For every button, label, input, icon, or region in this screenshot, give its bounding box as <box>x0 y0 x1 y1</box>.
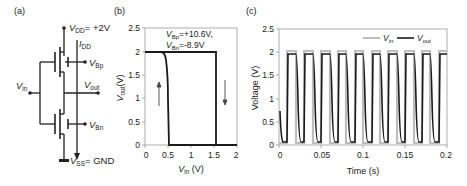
vin-label: Vin <box>16 80 28 92</box>
panel-c-label: (c) <box>246 6 257 16</box>
panel-b-ytick-labels: 2.5 2 1.5 1 0.5 0 <box>128 23 140 150</box>
panel-c-ylabel: Voltage (V) <box>250 66 260 111</box>
vout-label: Vout <box>84 79 100 91</box>
svg-text:2.5: 2.5 <box>128 23 140 33</box>
vdd-node <box>62 26 66 30</box>
svg-text:1.5: 1.5 <box>262 70 274 80</box>
panel-b-xtick-labels: 0 0.5 1 1.5 2 <box>144 150 239 160</box>
down-arrow-icon <box>223 100 227 105</box>
vbn-label: VBn <box>89 119 104 131</box>
svg-text:1.5: 1.5 <box>208 150 220 160</box>
panel-b-xlabel: Vin (V) <box>178 164 204 175</box>
svg-text:0.5: 0.5 <box>162 150 174 160</box>
svg-text:0.5: 0.5 <box>128 117 140 127</box>
panel-b-label: (b) <box>114 6 125 16</box>
vout-node <box>96 91 100 95</box>
figure: (a) VDD= +2V IDD VBp Vin Vout VBn VSS= G… <box>0 0 467 186</box>
idd-label: IDD <box>79 39 91 50</box>
svg-text:1: 1 <box>189 150 194 160</box>
up-arrow-icon <box>157 82 161 87</box>
svg-text:0.2: 0.2 <box>440 150 452 160</box>
panel-c-xtick-labels: 0 0.05 0.1 0.15 0.2 <box>278 150 453 160</box>
panel-b-annotation-vbp: VBp=+10.6V, <box>166 29 213 40</box>
panel-c-legend: Vin Vout <box>360 31 446 44</box>
vbp-label: VBp <box>89 57 104 70</box>
svg-text:0: 0 <box>144 150 149 160</box>
svg-text:2.5: 2.5 <box>262 24 274 34</box>
svg-text:2: 2 <box>269 47 274 57</box>
svg-text:1: 1 <box>135 93 140 103</box>
svg-text:0: 0 <box>135 140 140 150</box>
svg-text:0.5: 0.5 <box>262 117 274 127</box>
svg-text:0.15: 0.15 <box>397 150 414 160</box>
vbp-node <box>83 60 87 64</box>
svg-text:0: 0 <box>269 140 274 150</box>
panel-a-label: (a) <box>14 6 25 16</box>
vbn-node <box>83 122 87 126</box>
ground-bar <box>59 159 69 162</box>
svg-text:0: 0 <box>278 150 283 160</box>
svg-text:2: 2 <box>234 150 239 160</box>
svg-text:2: 2 <box>135 47 140 57</box>
panel-b-annotation-vbn: VBn=-8.9V <box>166 40 205 51</box>
svg-text:1.5: 1.5 <box>128 70 140 80</box>
panel-c-ytick-labels: 2.5 2 1.5 1 0.5 0 <box>262 24 274 150</box>
svg-text:0.05: 0.05 <box>314 150 331 160</box>
svg-text:0.1: 0.1 <box>357 150 369 160</box>
panel-c-xlabel: Time (s) <box>347 166 380 176</box>
svg-text:1: 1 <box>269 94 274 104</box>
panel-b-ylabel: Vout(V) <box>115 74 126 101</box>
vin-node <box>28 91 32 95</box>
vdd-label: VDD= +2V <box>69 22 111 34</box>
